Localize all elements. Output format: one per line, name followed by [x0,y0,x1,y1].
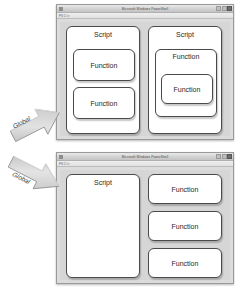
function-label: Function [156,53,216,60]
function-box[interactable]: Function [148,211,222,241]
script-box-left[interactable]: Script Function Function [66,26,140,134]
slide-canvas: Script Function Function Script Function… [60,22,230,136]
script-label: Script [67,179,139,186]
maximize-icon[interactable] [222,154,227,159]
slide-canvas: Script Function Function Function [60,170,230,280]
function-label: Function [149,260,221,267]
window-title: Microsoft Windows PowerShell [57,5,233,13]
function-label: Function [149,186,221,193]
function-box[interactable]: Function [148,174,222,204]
window-title: Microsoft Windows PowerShell [57,153,233,161]
global-arrow-label: Global [11,170,31,185]
function-label: Function [162,86,212,93]
prompt-text: PS C:\> [59,13,69,19]
titlebar[interactable]: Microsoft Windows PowerShell [57,153,233,161]
script-label: Script [149,31,221,38]
minimize-icon[interactable] [216,6,221,11]
script-box[interactable]: Script [66,174,140,278]
function-box-outer[interactable]: Function Function [155,49,217,117]
function-box[interactable]: Function [73,87,135,119]
function-label: Function [74,100,134,107]
close-icon[interactable] [227,154,232,159]
function-box[interactable]: Function [148,248,222,278]
maximize-icon[interactable] [222,6,227,11]
powershell-window-bottom[interactable]: Microsoft Windows PowerShell PS C:\> Scr… [56,152,234,284]
prompt-text: PS C:\> [59,161,69,167]
close-icon[interactable] [227,6,232,11]
toolbar: PS C:\> [57,13,233,19]
global-arrow-label: Global [11,115,31,130]
script-label: Script [67,31,139,38]
titlebar[interactable]: Microsoft Windows PowerShell [57,5,233,13]
function-box[interactable]: Function [73,49,135,81]
function-label: Function [149,223,221,230]
function-label: Function [74,62,134,69]
window-controls [216,6,232,11]
function-box-nested[interactable]: Function [161,74,213,104]
powershell-window-top[interactable]: Microsoft Windows PowerShell PS C:\> Scr… [56,4,234,140]
toolbar: PS C:\> [57,161,233,167]
window-controls [216,154,232,159]
script-box-right[interactable]: Script Function Function [148,26,222,134]
minimize-icon[interactable] [216,154,221,159]
